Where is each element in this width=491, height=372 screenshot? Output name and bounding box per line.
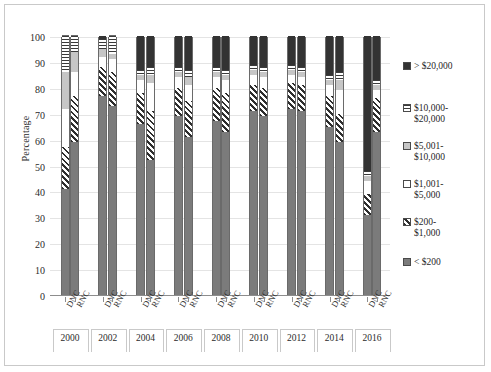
y-axis-tick-label: 90	[35, 57, 45, 68]
stacked-bar[interactable]	[98, 37, 107, 296]
stacked-bar[interactable]	[108, 37, 117, 296]
stacked-bar[interactable]	[297, 37, 306, 296]
bar-segment	[109, 36, 116, 54]
legend-label: $5,001- $10,000	[414, 141, 445, 163]
legend-label: < $200	[414, 257, 441, 268]
segment-divider	[62, 35, 69, 36]
stacked-bar[interactable]	[335, 37, 344, 296]
y-axis-tick-label: 50	[35, 161, 45, 172]
stacked-bar[interactable]	[259, 37, 268, 296]
bar-segment	[250, 65, 257, 70]
bar-segment	[137, 93, 144, 124]
bar-segment	[222, 93, 229, 132]
bar-segment	[260, 67, 267, 72]
bar-segment	[213, 72, 220, 77]
bar-segment	[137, 124, 144, 295]
y-axis-tick-label: 0	[40, 291, 45, 302]
bar-segment	[147, 83, 154, 111]
legend-swatch-icon	[403, 62, 411, 70]
bar-segment	[260, 77, 267, 87]
bar-segment	[175, 88, 182, 116]
bar-segment	[250, 36, 257, 64]
bar-segment	[288, 109, 295, 295]
bar-segment	[71, 72, 78, 95]
bar-segment	[175, 67, 182, 72]
bar-segment	[62, 189, 69, 295]
stacked-bar[interactable]	[70, 37, 79, 296]
bar-segment	[137, 36, 144, 70]
plot-inner: 0102030405060708090100	[50, 37, 390, 296]
year-group-label: 2002	[91, 333, 125, 343]
bar-segment	[213, 36, 220, 67]
bar-segment	[364, 181, 371, 194]
bar-segment	[364, 176, 371, 181]
stacked-bar[interactable]	[221, 37, 230, 296]
bar-segment	[373, 132, 380, 295]
stacked-bar[interactable]	[174, 37, 183, 296]
bar-segment	[326, 36, 333, 75]
legend-item[interactable]: $1,001- $5,000	[403, 179, 443, 201]
bar-segment	[71, 36, 78, 52]
bar-segment	[250, 70, 257, 75]
stacked-bar[interactable]	[136, 37, 145, 296]
legend-item[interactable]: $10,000- $20,000	[403, 103, 448, 125]
bar-segment	[99, 57, 106, 67]
year-group-label: 2012	[280, 333, 314, 343]
bar-segment	[222, 75, 229, 80]
bar-segment	[137, 80, 144, 93]
bar-segment	[298, 36, 305, 67]
bar-segment	[222, 36, 229, 70]
stacked-bar[interactable]	[184, 37, 193, 296]
bar-segment	[336, 114, 343, 142]
legend-label: $10,000- $20,000	[414, 103, 448, 125]
bar-segment	[222, 80, 229, 93]
legend-item[interactable]: $200- $1,000	[403, 217, 440, 239]
bar-segment	[298, 72, 305, 77]
stacked-bar[interactable]	[61, 37, 70, 296]
stacked-bar[interactable]	[249, 37, 258, 296]
bar-segment	[288, 75, 295, 83]
bar-segment	[326, 127, 333, 295]
year-group-label: 2008	[204, 333, 238, 343]
bar-segment	[298, 77, 305, 85]
legend-label: $1,001- $5,000	[414, 179, 443, 201]
legend-item[interactable]: > $20,000	[403, 61, 453, 72]
bar-segment	[260, 36, 267, 67]
legend-swatch-icon	[403, 104, 411, 112]
legend-label: $200- $1,000	[414, 217, 440, 239]
year-group-label: 2014	[317, 333, 351, 343]
bar-segment	[213, 67, 220, 72]
stacked-bar[interactable]	[146, 37, 155, 296]
bar-segment	[336, 80, 343, 90]
bar-segment	[71, 142, 78, 295]
legend-item[interactable]: $5,001- $10,000	[403, 141, 445, 163]
stacked-bar[interactable]	[372, 37, 381, 296]
bar-segment	[298, 85, 305, 111]
bar-segment	[62, 109, 69, 148]
legend-item[interactable]: < $200	[403, 257, 441, 268]
bar-segment	[250, 111, 257, 295]
bar-segment	[288, 83, 295, 109]
bar-segment	[175, 77, 182, 87]
legend-swatch-icon	[403, 180, 411, 188]
bar-segment	[364, 36, 371, 171]
bar-segment	[185, 101, 192, 137]
bar-segment	[147, 111, 154, 160]
bar-segment	[109, 54, 116, 59]
bar-segment	[336, 142, 343, 295]
stacked-bar[interactable]	[325, 37, 334, 296]
stacked-bar[interactable]	[287, 37, 296, 296]
bar-segment	[109, 59, 116, 72]
legend-swatch-icon	[403, 258, 411, 266]
bar-segment	[147, 67, 154, 75]
stacked-bar[interactable]	[363, 37, 372, 296]
year-group-label: 2000	[53, 333, 87, 343]
year-group-label: 2006	[166, 333, 200, 343]
legend-swatch-icon	[403, 218, 411, 226]
x-axis-labels: DNCRNCDNCRNCDNCRNCDNCRNCDNCRNCDNCRNCDNCR…	[50, 297, 390, 359]
bar-segment	[373, 98, 380, 132]
bar-segment	[373, 36, 380, 80]
bar-segment	[99, 67, 106, 95]
stacked-bar[interactable]	[212, 37, 221, 296]
bar-segment	[373, 80, 380, 85]
